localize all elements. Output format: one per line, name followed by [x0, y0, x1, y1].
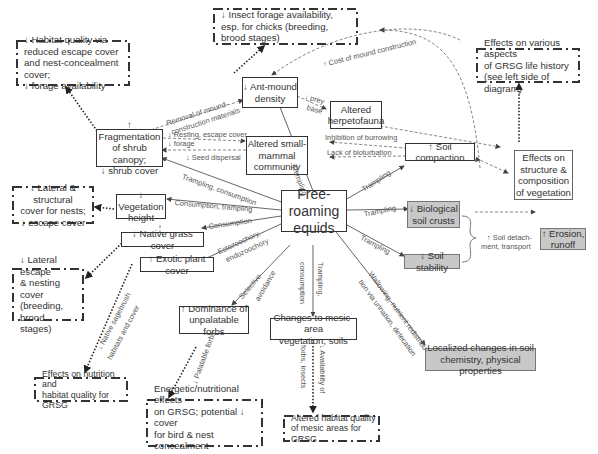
unpalatable-forbs-node: ↑ Dominance of unpalatable forbs [179, 306, 249, 334]
soil-chemistry-node: Localized changes in soil chemistry, phy… [425, 348, 536, 371]
nutrition-habitat-box: Effects on nutrition and habitat quality… [35, 378, 127, 401]
edge-label-lack-bioturbation: Lack of bioturbation [327, 148, 392, 157]
edge-label-availability: ↓ Availability of [318, 345, 327, 393]
vegetation-height-node: ↓ Vegetation height [116, 194, 166, 219]
free-roaming-equids-node: Free-roaming equids [281, 190, 347, 232]
habitat-quality-box: ↓ Habitat quality via reduced escape cov… [17, 41, 129, 85]
edge-label-trampling-mesic: Trampling, [316, 262, 325, 297]
herpetofauna-node: Altered herpetofauna [330, 101, 382, 129]
edge-label-inhibition-burrowing: Inhibition of burrowing [325, 133, 397, 142]
exotic-plant-node: ↑ Exotic plant cover [140, 257, 214, 272]
mesic-changes-node: Changes to mesic-area vegetation, soils [270, 318, 357, 340]
edge-label-seed-dispersal: ↓ Seed dispersal [186, 153, 241, 162]
mesic-habitat-box: Altered habitat quality of mesic areas f… [284, 416, 379, 441]
edge-label-forage: ↓ forage [168, 139, 195, 148]
lateral-structural-box: ↓ Lateral & structural cover for nests; … [13, 187, 93, 223]
fragmentation-node: ↑ Fragmentation of shrub canopy; ↓ shrub… [96, 129, 163, 167]
effects-vegetation-node: Effects on structure & composition of ve… [514, 150, 573, 200]
edge-label-soil-detachment: ↑ Soil detach- [487, 233, 532, 242]
lateral-escape-box: ↓ Lateral escape & nesting cover (breedi… [13, 269, 83, 320]
effects-life-history-box: Effects on various aspects of GRSG life … [477, 49, 579, 82]
erosion-runoff-node: ↑ Erosion, runoff [540, 228, 586, 250]
soil-stability-node: ↓ Soil stability [404, 254, 460, 269]
edge-label-resting: ↓ Resting, escape cover [168, 130, 247, 139]
insect-forage-box: ↓ Insect forage availability, esp. for c… [214, 9, 357, 44]
biological-soil-crusts-node: ↓ Biological soil crusts [407, 201, 460, 228]
ant-mound-density-node: ↓ Ant-mound density [242, 77, 298, 108]
edge-label-consumption-mesic: consumption [298, 262, 307, 304]
edge-label-soil-transport: ment, transport [481, 242, 531, 251]
native-grass-node: ↓ Native grass cover [121, 232, 204, 247]
energetic-effects-box: Energetic/nutritional effects on GRSG; p… [147, 400, 262, 446]
edge-label-forbs-insects: forbs, insects [299, 345, 308, 389]
soil-compaction-node: ↑ Soil compaction [405, 143, 475, 161]
